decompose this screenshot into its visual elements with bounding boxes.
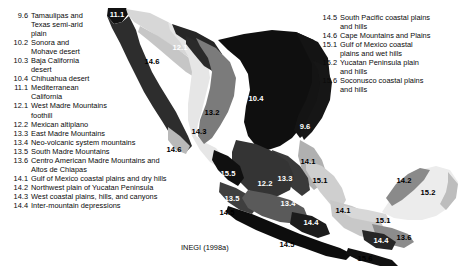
legend-item: 13.3East Madre Mountains (9, 129, 167, 138)
legend-item: 15.1Gulf of Mexico coastal (318, 40, 430, 49)
legend-item-label: and hills (318, 85, 367, 94)
legend-item: California (9, 92, 167, 101)
legend-item: 11.1Mediterranean (9, 83, 167, 92)
legend-item-code: 13.5 (9, 147, 31, 156)
legend-item-code: 9.6 (9, 11, 31, 20)
legend-item-label: and hills (318, 22, 367, 31)
legend-item-code: 13.3 (9, 129, 31, 138)
legend-item-label: West coastal plains, hills, and canyons (31, 192, 157, 201)
legend-item-label: Mohave desert (9, 47, 80, 56)
legend-item: 12.2Mexican altiplano (9, 120, 167, 129)
legend-item: 10.2Sonora and (9, 38, 167, 47)
legend-item: and hills (318, 67, 430, 76)
map-figure: 11.112.114.610.310.413.214.314.69.614.11… (0, 0, 466, 269)
legend-item-code: 13.6 (9, 156, 31, 165)
legend-left-column: 9.6Tamaulipas andTexas semi-aridplain10.… (9, 11, 167, 210)
legend-item-label: Texas semi-arid (9, 20, 83, 29)
legend-item: 13.6Centro American Madre Mountains and (9, 156, 167, 165)
legend-item: 13.5South Madre Mountains (9, 147, 167, 156)
legend-item-code: 14.5 (318, 13, 340, 22)
legend-right-column: 14.5South Pacific coastal plainsand hill… (318, 13, 430, 94)
region-12-2 (232, 140, 294, 196)
legend-item-label: California (9, 92, 62, 101)
source-attribution: INEGI (1998a) (181, 243, 229, 252)
legend-item-label: Cape Mountains and Plains (340, 31, 430, 40)
legend-item-label: Altos de Chiapas (9, 165, 87, 174)
legend-item: 12.1West Madre Mountains (9, 101, 167, 110)
legend-item: 15.2Yucatan Peninsula plain (318, 58, 430, 67)
legend-item: desert (9, 65, 167, 74)
legend-item-label: foothill (9, 111, 52, 120)
legend-item: Mohave desert (9, 47, 167, 56)
legend-item: 14.6Cape Mountains and Plains (318, 31, 430, 40)
legend-item-label: Yucatan Peninsula plain (340, 58, 419, 67)
legend-item-label: Mexican altiplano (31, 120, 88, 129)
legend-item-code: 10.4 (9, 74, 31, 83)
legend-item-label: desert (9, 65, 52, 74)
legend-item-label: Gulf of Mexico coastal plains and dry hi… (31, 174, 167, 183)
legend-item-label: South Madre Mountains (31, 147, 109, 156)
legend-item-code: 14.6 (318, 31, 340, 40)
legend-item-code: 10.2 (9, 38, 31, 47)
legend-item-code: 12.2 (9, 120, 31, 129)
legend-item-code: 13.4 (9, 138, 31, 147)
legend-item: foothill (9, 111, 167, 120)
legend-item-code: 12.1 (9, 101, 31, 110)
legend-item-label: Northwest plain of Yucatan Peninsula (31, 183, 153, 192)
legend-item-label: Baja California (31, 56, 79, 65)
legend-item: and hills (318, 22, 430, 31)
legend-item: plains and wet hills (318, 49, 430, 58)
region-15-6 (346, 248, 398, 266)
legend-item: 13.4Neo-volcanic system mountains (9, 138, 167, 147)
legend-item-label: Gulf of Mexico coastal (340, 40, 413, 49)
legend-item: and hills (318, 85, 430, 94)
legend-item: 14.1Gulf of Mexico coastal plains and dr… (9, 174, 167, 183)
legend-item-label: Sonora and (31, 38, 69, 47)
legend-item: 15.6Soconusco coastal plains (318, 76, 430, 85)
legend-item-code: 15.6 (318, 76, 340, 85)
legend-item: 9.6Tamaulipas and (9, 11, 167, 20)
legend-item-code: 14.2 (9, 183, 31, 192)
legend-item-label: plains and wet hills (318, 49, 402, 58)
legend-item: 14.4Inter-mountain depressions (9, 201, 167, 210)
legend-item: 10.3Baja California (9, 56, 167, 65)
legend-item-code: 14.3 (9, 192, 31, 201)
legend-item-code: 14.1 (9, 174, 31, 183)
legend-item: Altos de Chiapas (9, 165, 167, 174)
legend-item-label: and hills (318, 67, 367, 76)
legend-item-code: 15.1 (318, 40, 340, 49)
legend-item-code: 15.2 (318, 58, 340, 67)
legend-item-label: Inter-mountain depressions (31, 201, 121, 210)
legend-item-label: Centro American Madre Mountains and (31, 156, 160, 165)
legend-item-label: Mediterranean (31, 83, 79, 92)
legend-item-code: 10.3 (9, 56, 31, 65)
legend-item: Texas semi-arid (9, 20, 167, 29)
legend-item-label: West Madre Mountains (31, 101, 107, 110)
legend-item-label: East Madre Mountains (31, 129, 105, 138)
legend-item-code: 11.1 (9, 83, 31, 92)
legend-item-code: 14.4 (9, 201, 31, 210)
legend-item: plain (9, 29, 167, 38)
legend-item: 14.3West coastal plains, hills, and cany… (9, 192, 167, 201)
legend-item-label: Chihuahua desert (31, 74, 89, 83)
legend-item: 14.5South Pacific coastal plains (318, 13, 430, 22)
legend-item: 10.4Chihuahua desert (9, 74, 167, 83)
legend-item: 14.2Northwest plain of Yucatan Peninsula (9, 183, 167, 192)
legend-item-label: Tamaulipas and (31, 11, 83, 20)
legend-item-label: Neo-volcanic system mountains (31, 138, 135, 147)
legend-item-label: Soconusco coastal plains (340, 76, 423, 85)
legend-item-label: South Pacific coastal plains (340, 13, 430, 22)
legend-item-label: plain (9, 29, 47, 38)
